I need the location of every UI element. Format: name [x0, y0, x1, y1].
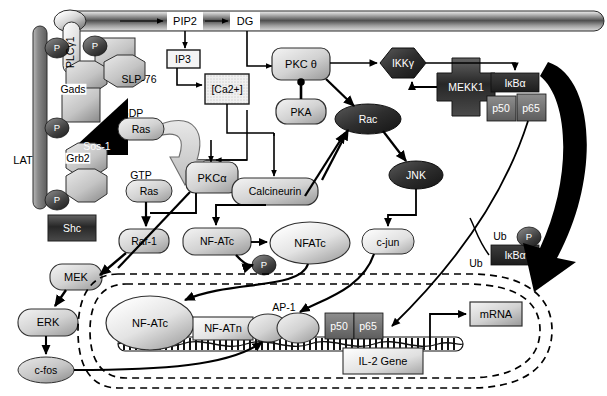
label-ub-2: Ub	[469, 258, 482, 269]
label-dg: DG	[237, 16, 254, 27]
label-calcineurin: Calcineurin	[249, 186, 302, 197]
label-jnk: JNK	[406, 170, 426, 181]
label-ras-gdp: Ras	[132, 124, 151, 135]
label-gads: Gads	[59, 84, 86, 95]
label-ikk-gamma: IKKγ	[392, 58, 414, 69]
label-ip3: IP3	[175, 54, 191, 65]
label-ub-1: Ub	[493, 231, 506, 242]
label-pkc-alpha: PKCα	[198, 173, 227, 184]
label-rac: Rac	[359, 114, 378, 125]
label-p50-nuclear: p50	[330, 321, 348, 332]
label-p65: p65	[522, 103, 540, 114]
label-mek: MEK	[64, 272, 88, 283]
phosphate-label: P	[526, 232, 532, 242]
label-nfatn: NF-ATn	[204, 323, 242, 334]
label-p65-nuclear: p65	[359, 321, 377, 332]
label-gtp: GTP	[130, 170, 152, 181]
phosphate-label: P	[261, 260, 267, 270]
label-pka: PKA	[290, 107, 311, 118]
label-cfos: c-fos	[35, 365, 58, 376]
label-grb2: Grb2	[65, 153, 90, 164]
label-nfatc-cytosolic: NF-ATc	[200, 236, 234, 247]
phosphate-label: P	[54, 123, 60, 133]
pathway-diagram: LAT PIP2 DG PLCγ1 Gads SLP-76 Sos-1 Grb2…	[0, 0, 607, 396]
label-nfatc-dephospho: NFATc	[294, 238, 326, 249]
phosphate-label: P	[54, 195, 60, 205]
plasma-membrane	[54, 10, 604, 32]
label-ikba: IκBα	[504, 78, 525, 89]
label-pip2: PIP2	[173, 16, 197, 27]
label-p50: p50	[492, 103, 510, 114]
label-lat: LAT	[13, 155, 32, 166]
label-ikba-degraded: IκBα	[504, 250, 525, 261]
label-ap1: AP-1	[272, 302, 295, 313]
label-calcium: [Ca2+]	[211, 84, 242, 95]
label-il2-gene: IL-2 Gene	[359, 356, 408, 367]
label-raf1: Raf-1	[131, 236, 157, 247]
label-cjun: c-jun	[377, 237, 400, 248]
lat-transmembrane	[33, 26, 47, 209]
phosphate-label: P	[54, 43, 60, 53]
label-ras-gtp: Ras	[140, 186, 159, 197]
label-slp76: SLP-76	[121, 74, 156, 85]
label-plcg1: PLCγ1	[65, 36, 76, 68]
label-erk: ERK	[37, 317, 60, 328]
label-gdp: GDP	[121, 108, 144, 119]
label-shc: Shc	[63, 223, 81, 234]
label-nfatc-nuclear: NF-ATc	[132, 318, 168, 329]
label-mrna: mRNA	[480, 309, 512, 320]
label-mekk1: MEKK1	[448, 82, 484, 93]
label-pkc-theta: PKC θ	[285, 59, 317, 70]
label-sos1: Sos-1	[83, 141, 110, 152]
phosphate-label: P	[92, 41, 98, 51]
